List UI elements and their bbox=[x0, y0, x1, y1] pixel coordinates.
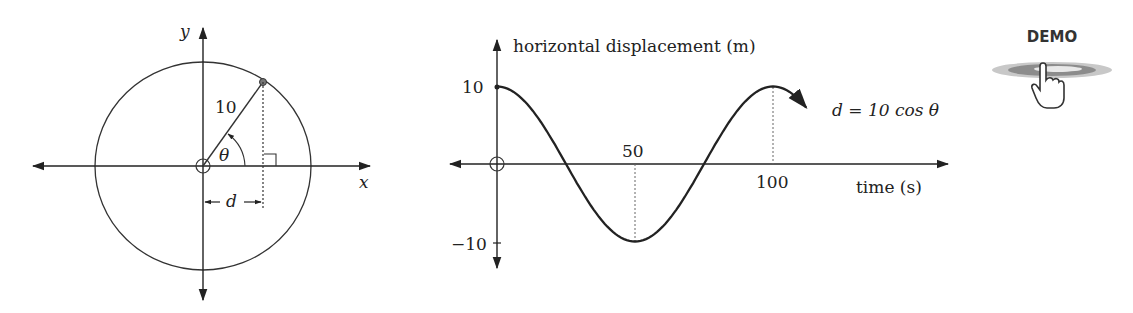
y-tick-10-label: 10 bbox=[462, 77, 484, 97]
angle-label: θ bbox=[219, 145, 229, 165]
circle-diagram: y x 10 θ d bbox=[33, 21, 370, 300]
demo-icon: DEMO bbox=[990, 20, 1115, 110]
y-axis-title: horizontal displacement (m) bbox=[513, 36, 756, 56]
angle-arc bbox=[228, 134, 245, 166]
displacement-graph: horizontal displacement (m) 10 −10 50 10… bbox=[450, 36, 948, 268]
demo-label: DEMO bbox=[1027, 28, 1077, 46]
equation-label: d = 10 cos θ bbox=[832, 100, 939, 120]
demo-button[interactable]: DEMO bbox=[990, 20, 1115, 110]
figure-canvas: y x 10 θ d horizontal displacement (m) 1… bbox=[0, 0, 1133, 313]
x-axis-title: time (s) bbox=[856, 177, 922, 197]
right-angle-icon bbox=[264, 154, 276, 166]
y-axis-label: y bbox=[179, 21, 190, 41]
x-tick-50-label: 50 bbox=[622, 141, 644, 161]
distance-label: d bbox=[226, 191, 237, 211]
x-tick-100-label: 100 bbox=[756, 172, 788, 192]
radius-line bbox=[203, 82, 263, 166]
radius-label: 10 bbox=[215, 97, 237, 117]
x-axis-label: x bbox=[359, 172, 369, 192]
y-tick-neg10-label: −10 bbox=[451, 234, 487, 254]
start-point bbox=[495, 85, 500, 90]
